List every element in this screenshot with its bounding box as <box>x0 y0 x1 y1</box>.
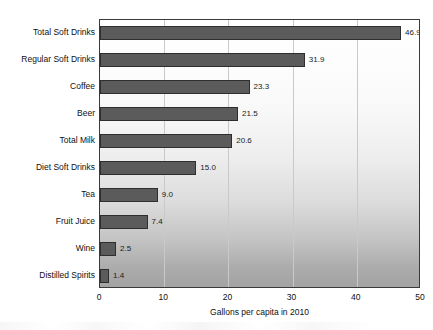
bar-value-label: 7.4 <box>152 216 163 227</box>
bar-row: 7.4 <box>100 215 419 229</box>
bar-value-label: 9.0 <box>162 189 173 200</box>
category-label: Total Soft Drinks <box>0 27 95 38</box>
bar <box>100 269 109 283</box>
bar <box>100 80 250 94</box>
x-tick-40: 40 <box>341 292 371 303</box>
bar-value-label: 15.0 <box>200 162 216 173</box>
x-tick-50: 50 <box>405 292 433 303</box>
bar-row: 15.0 <box>100 161 419 175</box>
bar <box>100 26 401 40</box>
bar-row: 9.0 <box>100 188 419 202</box>
bar-row: 23.3 <box>100 80 419 94</box>
bar <box>100 134 232 148</box>
category-label: Wine <box>0 243 95 254</box>
plot-area: 46.931.923.321.520.615.09.07.42.51.4 <box>99 19 420 288</box>
bar <box>100 242 116 256</box>
x-axis-title: Gallons per capita in 2010 <box>99 307 420 318</box>
bar <box>100 188 158 202</box>
bar-value-label: 20.6 <box>236 135 252 146</box>
bar-value-label: 21.5 <box>242 108 258 119</box>
bar-value-label: 1.4 <box>113 270 124 281</box>
bar <box>100 161 196 175</box>
bar-value-label: 23.3 <box>254 81 270 92</box>
category-label: Total Milk <box>0 135 95 146</box>
bar-row: 2.5 <box>100 242 419 256</box>
x-tick-20: 20 <box>212 292 242 303</box>
x-tick-30: 30 <box>277 292 307 303</box>
category-label: Tea <box>0 189 95 200</box>
bar <box>100 107 238 121</box>
bar-row: 20.6 <box>100 134 419 148</box>
category-label: Beer <box>0 108 95 119</box>
bar <box>100 215 148 229</box>
category-label: Fruit Juice <box>0 216 95 227</box>
category-label: Regular Soft Drinks <box>0 54 95 65</box>
bar <box>100 53 305 67</box>
category-label: Distilled Spirits <box>0 270 95 281</box>
bar-row: 1.4 <box>100 269 419 283</box>
bar-value-label: 31.9 <box>309 54 325 65</box>
x-tick-10: 10 <box>148 292 178 303</box>
scan-artifact <box>0 322 433 330</box>
x-tick-0: 0 <box>84 292 114 303</box>
bar-value-label: 46.9 <box>405 27 420 38</box>
bar-value-label: 2.5 <box>120 243 131 254</box>
bar-row: 21.5 <box>100 107 419 121</box>
category-label: Diet Soft Drinks <box>0 162 95 173</box>
category-label: Coffee <box>0 81 95 92</box>
bar-chart: 46.931.923.321.520.615.09.07.42.51.4 Tot… <box>0 0 433 330</box>
bar-row: 46.9 <box>100 26 419 40</box>
bar-row: 31.9 <box>100 53 419 67</box>
